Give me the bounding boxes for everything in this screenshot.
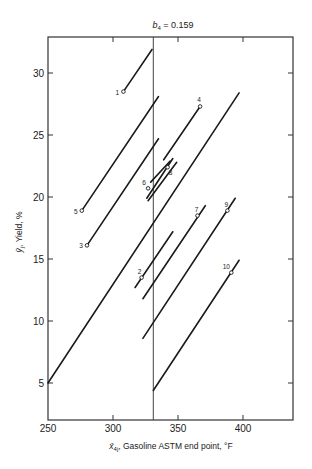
data-point-marker: [85, 244, 89, 248]
data-point-marker: [226, 209, 230, 213]
data-point-label: 9: [225, 201, 229, 208]
data-point-label: 5: [74, 208, 78, 215]
y-tick-label: 10: [33, 316, 45, 327]
data-point-label: 4: [197, 96, 201, 103]
data-point-marker: [122, 90, 126, 94]
line-4: [164, 106, 200, 159]
data-point-marker: [140, 276, 144, 280]
y-tick-label: 15: [33, 254, 45, 265]
data-point-label: 3: [79, 242, 83, 249]
data-point-label: 1: [116, 89, 120, 96]
y-tick-label: 5: [38, 378, 44, 389]
x-tick-label: 350: [170, 423, 187, 434]
data-point-marker: [80, 209, 84, 213]
x-tick-label: 250: [40, 423, 57, 434]
data-point-marker: [146, 187, 150, 191]
data-point-label: 6: [142, 179, 146, 186]
line-7: [143, 206, 205, 299]
line-3: [87, 139, 159, 246]
data-point-label: 7: [195, 206, 199, 213]
x-axis-title: x̄4j, Gasoline ASTM end point, °F: [108, 441, 232, 452]
data-point-label: 8: [169, 169, 173, 176]
x-tick-label: 300: [105, 423, 122, 434]
data-segments: [48, 49, 239, 390]
chart-container: 25030035040051015202530 12345678910 b4 =…: [0, 0, 312, 469]
line-10: [153, 260, 239, 390]
plot-frame: [48, 37, 293, 420]
line-6: [147, 159, 173, 199]
data-point-marker: [198, 105, 202, 109]
y-tick-label: 25: [33, 130, 45, 141]
y-axis-title: ȳj, Yield, %: [14, 211, 25, 253]
x-tick-label: 400: [235, 423, 252, 434]
y-tick-label: 20: [33, 192, 45, 203]
data-point-marker: [196, 214, 200, 218]
plot-border: [48, 37, 293, 420]
chart-title: b4 = 0.159: [152, 20, 193, 31]
chart-svg: 25030035040051015202530 12345678910 b4 =…: [0, 0, 312, 469]
line-long: [48, 93, 239, 383]
data-point-label: 10: [223, 263, 231, 270]
line-5: [82, 97, 159, 211]
data-point-label: 2: [138, 268, 142, 275]
line-1: [123, 49, 152, 91]
y-tick-label: 30: [33, 68, 45, 79]
data-point-marker: [230, 271, 234, 275]
